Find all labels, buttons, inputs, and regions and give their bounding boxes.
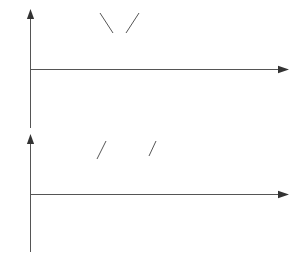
reference-label-leader bbox=[126, 13, 139, 33]
bottom-y-axis-arrow bbox=[27, 134, 34, 144]
fundamental-label-leader bbox=[97, 141, 106, 159]
bottom-panel bbox=[27, 134, 289, 252]
output-label-leader bbox=[149, 141, 156, 156]
top-panel bbox=[27, 9, 289, 128]
top-x-axis-arrow bbox=[278, 66, 289, 73]
top-y-axis-arrow bbox=[27, 9, 34, 19]
spwm-figure bbox=[0, 0, 303, 264]
carrier-label-leader bbox=[100, 13, 113, 33]
bottom-x-axis-arrow bbox=[278, 191, 289, 198]
figure-canvas bbox=[0, 0, 303, 264]
